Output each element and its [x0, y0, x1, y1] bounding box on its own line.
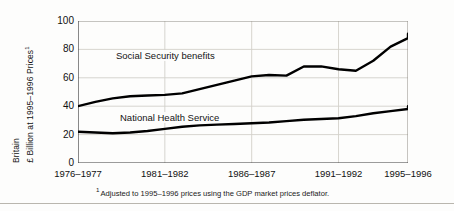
y-tick-label: 20 [48, 130, 74, 140]
footnote-marker: 1 [96, 186, 99, 193]
y-tick-label: 60 [48, 73, 74, 83]
y-axis-title-line1: Britain [11, 138, 21, 163]
x-tick-label: 1986–1987 [228, 168, 276, 179]
chart-footnote: 1Adjusted to 1995–1996 prices using the … [96, 186, 329, 198]
series-label-social-security: Social Security benefits [114, 50, 217, 61]
footnote-text: Adjusted to 1995–1996 prices using the G… [100, 189, 329, 198]
series-label-national-health-service: National Health Service [118, 112, 221, 123]
plot-area [78, 21, 408, 163]
x-tick-label: 1976–1977 [54, 168, 102, 179]
axis-frame [78, 21, 408, 163]
y-tick-label: 0 [48, 158, 74, 168]
bottom-divider [0, 203, 454, 204]
x-tick-label: 1995–1996 [384, 168, 432, 179]
y-axis-title-footnote-marker: 1 [24, 47, 30, 50]
x-tick-label: 1981–1982 [141, 168, 189, 179]
series-line [78, 34, 408, 106]
y-tick-label: 100 [48, 16, 74, 26]
y-tick-label: 40 [48, 101, 74, 111]
y-axis-title-line2: £ Billion at 1995–1996 Prices1 [24, 47, 35, 163]
chart-figure: Britain £ Billion at 1995–1996 Prices1 0… [0, 0, 454, 211]
y-tick-label: 80 [48, 44, 74, 54]
x-tick-label: 1991–1992 [315, 168, 363, 179]
chart-svg [78, 21, 408, 163]
y-axis-title-line2-text: £ Billion at 1995–1996 Prices [25, 50, 35, 163]
y-axis-tick-labels: 020406080100 [44, 0, 74, 211]
gridlines [78, 21, 408, 163]
y-axis-title: Britain £ Billion at 1995–1996 Prices1 [2, 21, 46, 163]
